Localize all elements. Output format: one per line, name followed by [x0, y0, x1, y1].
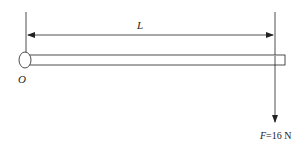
- force-label: F=16 N: [260, 130, 291, 141]
- force-value: =16 N: [266, 130, 291, 141]
- pivot-ellipse: [19, 52, 31, 68]
- diagram-graphics: [0, 0, 303, 148]
- length-label: L: [137, 19, 143, 31]
- rod: [26, 55, 285, 65]
- pivot-label: O: [18, 73, 26, 85]
- lever-diagram: L O F=16 N: [0, 0, 303, 148]
